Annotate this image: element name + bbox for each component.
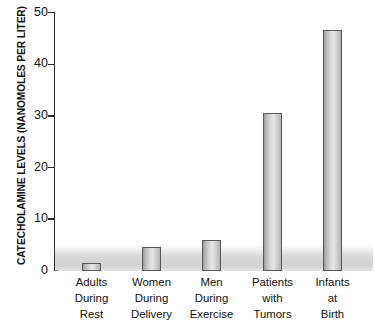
catecholamine-bar-chart: CATECHOLAMINE LEVELS (NANOMOLES PER LITE…	[0, 0, 375, 327]
category-line-1: Infants	[296, 274, 370, 290]
bar-women-during-delivery	[142, 247, 161, 271]
category-line-2: at	[296, 290, 370, 306]
y-axis-tick-labels: 50 40 30 20 10 0	[20, 0, 48, 327]
y-tick-mark-30	[48, 115, 54, 116]
bar-patients-with-tumors	[263, 113, 282, 272]
x-axis-category-labels: Adults During Rest Women During Delivery…	[55, 274, 373, 327]
bar-infants-at-birth	[323, 30, 342, 271]
y-tick-label-20: 20	[22, 161, 48, 174]
y-tick-mark-50	[48, 12, 54, 13]
y-tick-label-30: 30	[22, 109, 48, 122]
y-tick-label-10: 10	[22, 212, 48, 225]
category-label-infants-at-birth: Infants at Birth	[296, 274, 370, 323]
y-tick-mark-10	[48, 218, 54, 219]
bar-men-during-exercise	[202, 240, 221, 271]
category-line-3: Birth	[296, 306, 370, 322]
y-tick-mark-40	[48, 64, 54, 65]
bar-adults-during-rest	[82, 263, 101, 271]
y-tick-label-40: 40	[22, 57, 48, 70]
y-tick-label-50: 50	[22, 6, 48, 19]
y-tick-mark-20	[48, 167, 54, 168]
plot-area	[55, 12, 373, 271]
y-tick-label-0: 0	[22, 264, 48, 277]
